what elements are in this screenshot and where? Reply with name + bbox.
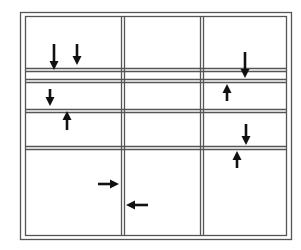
- arrow-down-3-icon: [46, 89, 55, 106]
- arrow-down-4-icon: [241, 52, 250, 78]
- arrow-up-2-head: [223, 84, 232, 93]
- arrow-left-1-icon: [126, 201, 148, 210]
- grid-diagram: [0, 0, 301, 250]
- arrow-down-2-head: [73, 56, 82, 65]
- arrow-down-1-icon: [50, 44, 59, 70]
- inner-frame: [26, 17, 287, 236]
- arrow-up-1-icon: [63, 111, 72, 130]
- arrow-down-2-icon: [73, 44, 82, 65]
- arrow-down-5-head: [242, 136, 251, 145]
- outer-frame: [21, 13, 292, 240]
- arrow-right-1-icon: [98, 180, 119, 189]
- grid-frame-diagram: [0, 0, 301, 250]
- arrow-right-1-head: [110, 180, 119, 189]
- arrow-up-2-icon: [223, 84, 232, 101]
- arrow-down-5-icon: [242, 124, 251, 145]
- arrow-left-1-head: [126, 201, 135, 210]
- arrow-up-3-icon: [233, 151, 242, 168]
- arrow-down-4-head: [241, 69, 250, 78]
- arrow-down-3-head: [46, 97, 55, 106]
- arrow-up-3-head: [233, 151, 242, 160]
